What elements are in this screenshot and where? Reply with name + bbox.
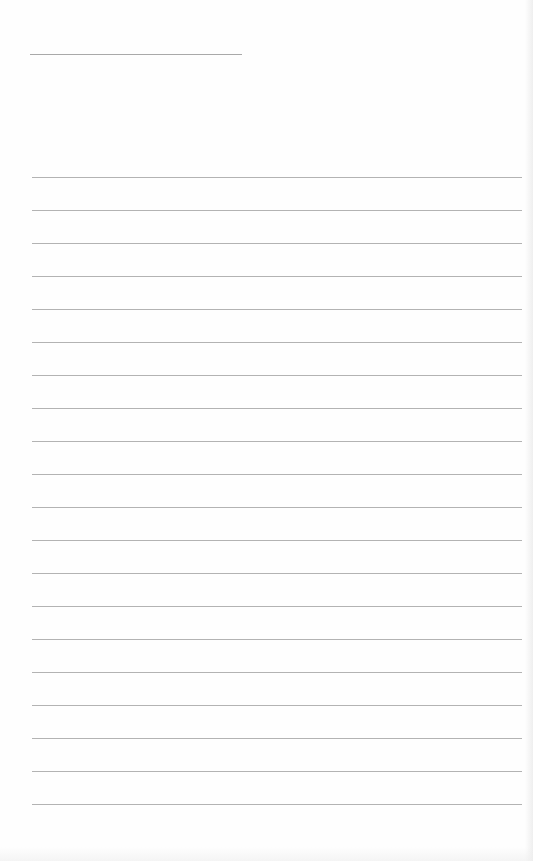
- ruled-line: [32, 705, 522, 706]
- ruled-line: [32, 375, 522, 376]
- ruled-line: [32, 474, 522, 475]
- ruled-line: [32, 738, 522, 739]
- ruled-line: [32, 408, 522, 409]
- ruled-line: [32, 243, 522, 244]
- ruled-line: [32, 606, 522, 607]
- ruled-line: [32, 177, 522, 178]
- page-bottom-shadow: [0, 847, 533, 861]
- header-line: [30, 54, 242, 55]
- ruled-line: [32, 507, 522, 508]
- ruled-line: [32, 771, 522, 772]
- ruled-line: [32, 672, 522, 673]
- ruled-line: [32, 804, 522, 805]
- ruled-line: [32, 309, 522, 310]
- ruled-line: [32, 342, 522, 343]
- ruled-line: [32, 540, 522, 541]
- ruled-lines: [32, 177, 522, 837]
- ruled-line: [32, 573, 522, 574]
- ruled-line: [32, 441, 522, 442]
- ruled-line: [32, 639, 522, 640]
- ruled-line: [32, 276, 522, 277]
- page-edge-shadow: [525, 0, 533, 861]
- ruled-line: [32, 210, 522, 211]
- lined-page: [0, 0, 533, 861]
